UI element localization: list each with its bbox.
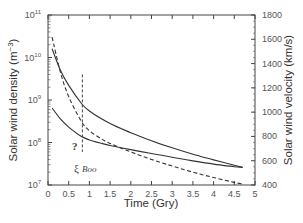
y-right-tick-label: 800 [262,131,277,141]
y-left-tick-label: 107 [28,179,42,190]
y-left-tick-label: 108 [28,137,42,148]
x-tick-label: 5 [252,189,257,199]
x-tick-label: 3.5 [187,189,200,199]
y-left-tick-label: 1011 [25,9,42,20]
series-line-0 [52,49,243,168]
x-axis-title: Time (Gry) [124,197,179,209]
series-line-1 [52,37,243,184]
x-tick-label: 0 [45,189,50,199]
svg-text:ξ: ξ [74,162,79,175]
series-layer [52,37,243,184]
x-tick-label: 4 [211,189,216,199]
y-right-tick-labels: 40060080010001200140016001800 [262,10,282,190]
x-tick-label: 0.5 [62,189,75,199]
y-right-axis-title: Solar wind velocity (km/s) [282,35,294,166]
x-tick-label: 1.5 [104,189,117,199]
y-left-tick-label: 109 [28,94,42,105]
x-tick-label: 4.5 [228,189,241,199]
y-right-tick-label: 1200 [262,83,282,93]
y-right-tick-label: 1600 [262,34,282,44]
y-right-tick-label: 1000 [262,107,282,117]
y-left-axis-title: Solar wind density (m−3) [6,38,19,161]
question-mark-annotation: ? [72,140,78,152]
svg-text:Boo: Boo [82,164,97,174]
y-right-tick-label: 600 [262,156,277,166]
y-left-tick-labels: 10710810910101011 [24,9,41,190]
xi-boo-annotation: ξ Boo [74,162,97,175]
y-right-tick-label: 1400 [262,59,282,69]
y-left-tick-label: 1010 [24,52,41,63]
chart: 00.511.522.533.544.55 10710810910101011 … [0,0,303,223]
x-tick-label: 1 [87,189,92,199]
y-right-tick-label: 1800 [262,10,282,20]
y-right-tick-label: 400 [262,180,277,190]
